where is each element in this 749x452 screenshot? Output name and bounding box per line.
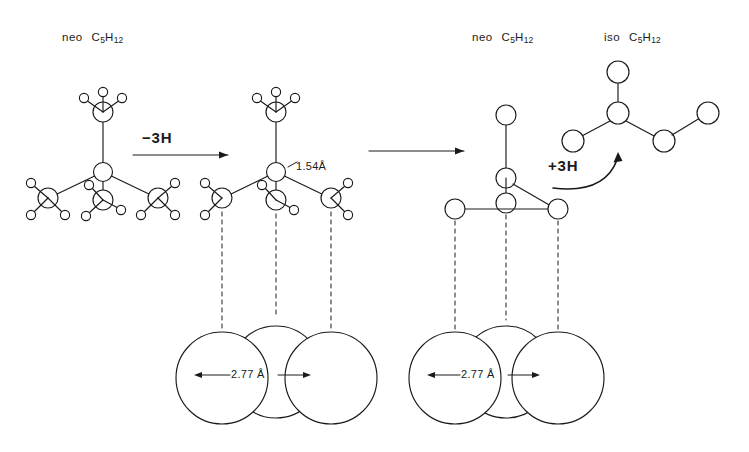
label-neo-pentane-right: neo C5H12 bbox=[472, 31, 533, 45]
label-h-sub-neo-left: 12 bbox=[114, 35, 123, 45]
label-h-sub-neo-right: 12 bbox=[524, 35, 533, 45]
label-h-iso: H bbox=[642, 31, 651, 43]
bond-length-label: 1.54Å bbox=[296, 160, 326, 172]
reaction-label-minus-3h: −3H bbox=[142, 129, 172, 146]
label-c-iso: C bbox=[629, 31, 638, 43]
label-prefix-neo-left: neo bbox=[62, 31, 83, 43]
reaction-arrow-1 bbox=[133, 152, 228, 159]
diagram-canvas bbox=[0, 0, 749, 452]
structure-neopentane-full bbox=[26, 87, 179, 220]
label-prefix-neo-right: neo bbox=[472, 31, 493, 43]
label-c-neo-left: C bbox=[91, 31, 100, 43]
chemistry-diagram: neo C5H12 neo C5H12 iso C5H12 −3H +3H 1.… bbox=[0, 0, 749, 452]
projection-lines-left bbox=[222, 212, 331, 330]
label-h-neo-right: H bbox=[515, 31, 524, 43]
label-neo-pentane-left: neo C5H12 bbox=[62, 31, 123, 45]
projection-lines-right bbox=[455, 215, 558, 332]
label-iso-pentane: iso C5H12 bbox=[604, 31, 661, 45]
label-h-sub-iso: 12 bbox=[651, 35, 660, 45]
structure-isopentane bbox=[562, 61, 719, 152]
label-prefix-iso: iso bbox=[604, 31, 620, 43]
spacing-label-right: 2.77 Å bbox=[461, 368, 495, 380]
spacing-label-left: 2.77 Å bbox=[231, 368, 265, 380]
reaction-arrow-2 bbox=[369, 148, 464, 155]
label-c-neo-right: C bbox=[501, 31, 510, 43]
label-h-neo-left: H bbox=[105, 31, 114, 43]
reaction-label-plus-3h: +3H bbox=[548, 157, 578, 174]
